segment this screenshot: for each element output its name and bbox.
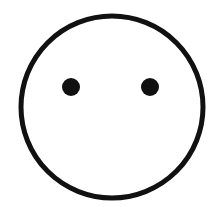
- right-eye: [141, 78, 159, 96]
- face-drawing: [0, 0, 220, 207]
- left-eye: [62, 78, 80, 96]
- face-outline: [21, 16, 203, 198]
